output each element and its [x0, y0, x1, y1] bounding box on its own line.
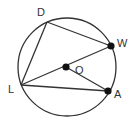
label-l: L [8, 83, 14, 95]
chord-segments [21, 22, 111, 91]
point-a-marker [104, 87, 111, 94]
segment-dw [47, 22, 111, 46]
label-w: W [117, 37, 128, 49]
label-a: A [114, 88, 122, 100]
points [62, 42, 114, 94]
circle-geometry-diagram: DWOLA [0, 0, 136, 119]
segment-oa [66, 67, 108, 91]
label-d: D [37, 6, 45, 18]
point-w-marker [107, 42, 114, 49]
label-o: O [75, 64, 84, 76]
point-o-marker [62, 63, 69, 70]
segment-la [21, 85, 108, 91]
